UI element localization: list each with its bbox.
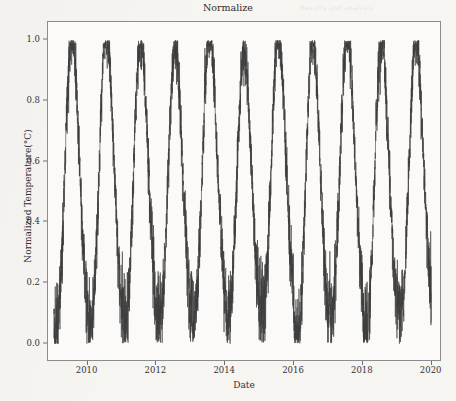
- x-tick-label: 2016: [282, 365, 304, 375]
- x-axis-ticks: 201020122014201620182020: [0, 0, 456, 401]
- x-tick-mark: [362, 361, 363, 365]
- x-tick-mark: [293, 361, 294, 365]
- x-tick-mark: [155, 361, 156, 365]
- y-axis-label: Normalized Temperature(°C): [23, 96, 33, 296]
- x-tick-label: 2020: [420, 365, 442, 375]
- x-tick-label: 2018: [351, 365, 373, 375]
- x-tick-label: 2010: [76, 365, 98, 375]
- x-tick-mark: [224, 361, 225, 365]
- x-tick-label: 2014: [213, 365, 235, 375]
- x-tick-mark: [431, 361, 432, 365]
- matplotlib-figure: Normalize 0.00.20.40.60.81.0 20102012201…: [0, 0, 456, 401]
- x-tick-label: 2012: [145, 365, 167, 375]
- x-axis-label: Date: [47, 380, 441, 390]
- x-tick-mark: [87, 361, 88, 365]
